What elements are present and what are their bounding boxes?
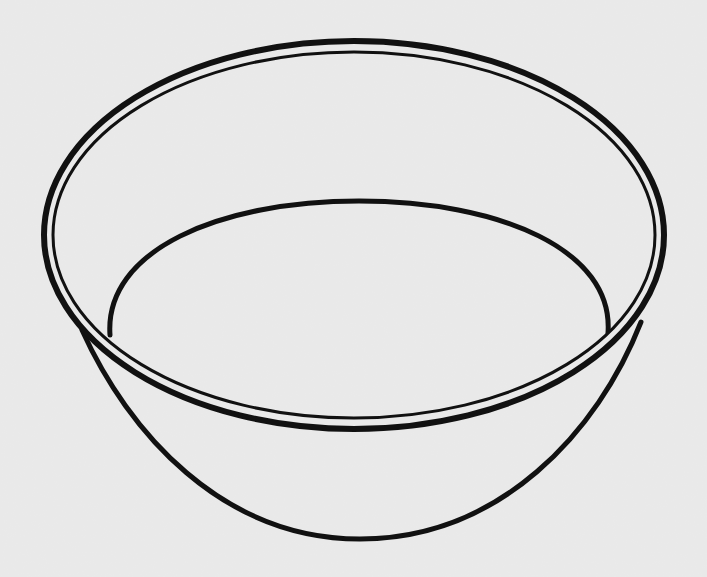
bowl-illustration: Line drawing of an empty round bowl [0, 0, 707, 577]
bowl-drawing [0, 0, 707, 577]
